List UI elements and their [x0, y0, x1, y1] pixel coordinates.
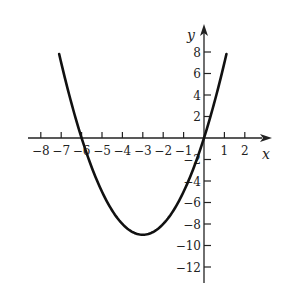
- y-tick-label: −8: [183, 218, 201, 232]
- parabola-chart: −8−7−6−5−4−3−2−112 8642−2−4−6−8−10−12 x …: [0, 0, 286, 294]
- x-tick-label: −7: [52, 144, 70, 158]
- x-tick-label: −8: [32, 144, 50, 158]
- x-tick-label: 1: [221, 144, 229, 158]
- x-axis: [28, 134, 272, 142]
- x-axis-ticks: −8−7−6−5−4−3−2−112: [32, 132, 249, 158]
- y-tick-label: 8: [193, 46, 201, 60]
- y-axis-label: y: [186, 27, 196, 43]
- y-tick-label: 6: [193, 67, 201, 81]
- y-tick-label: −12: [176, 261, 201, 275]
- x-tick-label: 2: [241, 144, 249, 158]
- x-tick-label: −4: [114, 144, 132, 158]
- x-axis-label: x: [262, 146, 270, 162]
- y-tick-label: 2: [193, 110, 201, 124]
- x-tick-label: −2: [154, 144, 172, 158]
- y-tick-label: −10: [176, 239, 201, 253]
- y-tick-label: 4: [193, 89, 201, 103]
- x-tick-label: −3: [134, 144, 152, 158]
- y-tick-label: −6: [183, 196, 201, 210]
- y-axis-ticks: 8642−2−4−6−8−10−12: [176, 46, 211, 275]
- x-tick-label: −5: [93, 144, 111, 158]
- y-axis: [200, 24, 208, 283]
